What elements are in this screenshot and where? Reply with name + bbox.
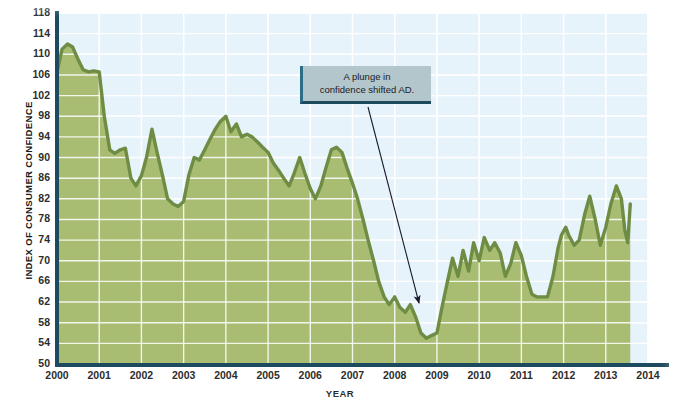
y-tick-label: 62 — [0, 295, 50, 307]
y-tick-86: 86 — [0, 171, 50, 183]
y-tick-78: 78 — [0, 212, 50, 224]
x-axis-title: YEAR — [0, 388, 680, 399]
y-tick-label: 86 — [0, 171, 50, 183]
y-tick-label: 94 — [0, 130, 50, 142]
y-tick-66: 66 — [0, 274, 50, 286]
annotation-callout: A plunge in confidence shifted AD. — [300, 66, 431, 104]
y-tick-label: 110 — [0, 47, 50, 59]
y-tick-label: 106 — [0, 68, 50, 80]
x-tick-label: 2014 — [618, 369, 678, 381]
y-tick-label: 114 — [0, 27, 50, 39]
y-tick-label: 102 — [0, 89, 50, 101]
y-tick-label: 58 — [0, 316, 50, 328]
y-tick-58: 58 — [0, 316, 50, 328]
y-tick-label: 98 — [0, 109, 50, 121]
y-tick-50: 50 — [0, 357, 50, 369]
y-tick-label: 66 — [0, 274, 50, 286]
y-tick-62: 62 — [0, 295, 50, 307]
y-tick-118: 118 — [0, 6, 50, 18]
y-tick-label: 70 — [0, 254, 50, 266]
y-axis-line — [55, 11, 59, 367]
annotation-line-1: A plunge in — [343, 71, 390, 82]
y-tick-74: 74 — [0, 233, 50, 245]
y-tick-label: 82 — [0, 192, 50, 204]
annotation-text: A plunge in confidence shifted AD. — [315, 71, 420, 97]
x-tick-2014: 2014 — [618, 369, 678, 381]
y-tick-54: 54 — [0, 336, 50, 348]
y-tick-98: 98 — [0, 109, 50, 121]
y-tick-82: 82 — [0, 192, 50, 204]
y-tick-label: 54 — [0, 336, 50, 348]
y-tick-102: 102 — [0, 89, 50, 101]
x-axis-line — [55, 363, 669, 367]
y-tick-90: 90 — [0, 151, 50, 163]
consumer-confidence-chart: INDEX OF CONSUMER CONFIDENCE 50545862667… — [0, 0, 680, 408]
y-tick-110: 110 — [0, 47, 50, 59]
y-tick-label: 90 — [0, 151, 50, 163]
y-tick-94: 94 — [0, 130, 50, 142]
y-tick-label: 74 — [0, 233, 50, 245]
y-tick-106: 106 — [0, 68, 50, 80]
y-tick-label: 50 — [0, 357, 50, 369]
annotation-line-2: confidence shifted AD. — [320, 84, 415, 95]
y-tick-label: 118 — [0, 6, 50, 18]
y-tick-114: 114 — [0, 27, 50, 39]
y-tick-70: 70 — [0, 254, 50, 266]
y-tick-label: 78 — [0, 212, 50, 224]
